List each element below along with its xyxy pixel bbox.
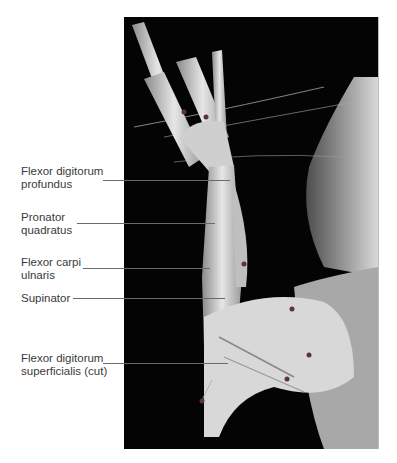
label-flexor-carpi-ulnaris: Flexor carpi ulnaris (21, 256, 81, 282)
leader-line-pronator-quadratus (77, 223, 215, 224)
label-supinator: Supinator (21, 292, 70, 305)
leader-line-flexor-digitorum-superficialis (103, 363, 228, 364)
label-flexor-digitorum-profundus: Flexor digitorum profundus (21, 165, 103, 191)
leader-line-flexor-carpi-ulnaris (83, 268, 210, 269)
leader-line-supinator (73, 298, 225, 299)
dissection-photo (124, 17, 379, 449)
label-pronator-quadratus: Pronator quadratus (21, 211, 72, 237)
forearm-dissection-illustration (124, 17, 378, 449)
leader-line-flexor-digitorum-profundus (103, 180, 230, 181)
label-flexor-digitorum-superficialis: Flexor digitorum superficialis (cut) (21, 352, 107, 378)
